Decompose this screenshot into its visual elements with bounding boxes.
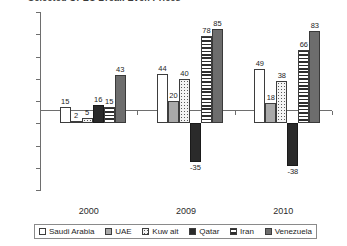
legend-label: UAE: [115, 227, 131, 236]
x-axis-tick: [332, 111, 333, 115]
y-axis-tick: [36, 12, 41, 13]
legend-label: Iran: [240, 227, 254, 236]
bar: [190, 123, 201, 162]
bar-value-label: 44: [152, 65, 173, 73]
x-axis-tick: [40, 111, 41, 115]
bar-value-label: 15: [55, 98, 76, 106]
y-axis-tick: [36, 168, 41, 169]
bar: [179, 79, 190, 124]
legend-item-venezuela[interactable]: Venezuela: [265, 227, 312, 236]
bar: [115, 75, 126, 123]
legend-swatch-icon: [142, 228, 149, 235]
legend-item-iran[interactable]: Iran: [230, 227, 254, 236]
legend-label: Venezuela: [275, 227, 312, 236]
bar: [298, 50, 309, 123]
bar-value-label: 40: [174, 70, 195, 78]
legend-label: Kuw ait: [152, 227, 178, 236]
y-axis-tick: [36, 57, 41, 58]
legend-item-kuw-ait[interactable]: Kuw ait: [142, 227, 178, 236]
x-axis-tick: [235, 111, 236, 115]
y-axis-tick: [36, 79, 41, 80]
x-axis-category-label: 2000: [40, 206, 137, 216]
bar-value-label: 43: [110, 66, 131, 74]
chart-legend: Saudi ArabiaUAEKuw aitQatarIranVenezuela: [34, 224, 317, 239]
bar: [212, 29, 223, 124]
legend-item-qatar[interactable]: Qatar: [189, 227, 219, 236]
bar: [265, 103, 276, 123]
y-axis-tick: [36, 123, 41, 124]
bar-value-label: 38: [271, 72, 292, 80]
legend-item-saudi-arabia[interactable]: Saudi Arabia: [39, 227, 94, 236]
legend-swatch-icon: [105, 228, 112, 235]
legend-swatch-icon: [39, 228, 46, 235]
y-axis-tick: [36, 34, 41, 35]
x-axis-tick: [137, 111, 138, 115]
y-axis-tick: [36, 101, 41, 102]
bar-value-label: -38: [282, 168, 303, 176]
bar-value-label: 83: [304, 22, 325, 30]
bar: [104, 107, 115, 124]
bar: [93, 105, 104, 123]
bar-value-label: -35: [185, 164, 206, 172]
plot-area: $100$80$60$40$20$0-$20-$40-$60 152516154…: [40, 12, 332, 190]
legend-label: Qatar: [199, 227, 219, 236]
bar: [168, 101, 179, 123]
legend-swatch-icon: [265, 228, 272, 235]
y-axis-tick: [36, 146, 41, 147]
legend-label: Saudi Arabia: [49, 227, 94, 236]
bar: [276, 81, 287, 123]
x-axis-category-label: 2010: [235, 206, 332, 216]
legend-swatch-icon: [230, 228, 237, 235]
bar-value-label: 85: [207, 20, 228, 28]
y-axis-tick: [36, 190, 41, 191]
x-axis-category-label: 2009: [137, 206, 234, 216]
bar: [82, 118, 93, 124]
bar: [71, 121, 82, 123]
bar: [287, 123, 298, 165]
bar: [201, 36, 212, 123]
legend-swatch-icon: [189, 228, 196, 235]
bar-value-label: 49: [249, 60, 270, 68]
chart-title: Selected OPEC Break-Even Prices: [28, 0, 258, 2]
bar: [309, 31, 320, 123]
legend-item-uae[interactable]: UAE: [105, 227, 131, 236]
